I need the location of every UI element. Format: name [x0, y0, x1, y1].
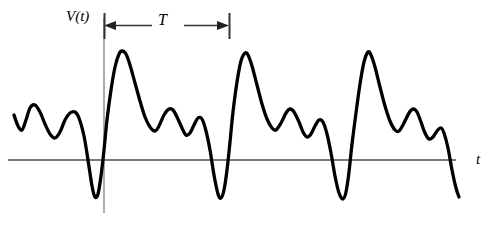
waveform-figure: V(t) T t [0, 0, 502, 234]
horizontal-axis-label: t [476, 152, 480, 167]
waveform-trace [14, 51, 459, 199]
period-right-arrowhead-icon [217, 21, 229, 30]
period-label: T [158, 12, 167, 28]
period-left-arrowhead-icon [104, 21, 116, 30]
vertical-axis-label: V(t) [66, 9, 89, 24]
waveform-plot [0, 0, 502, 234]
